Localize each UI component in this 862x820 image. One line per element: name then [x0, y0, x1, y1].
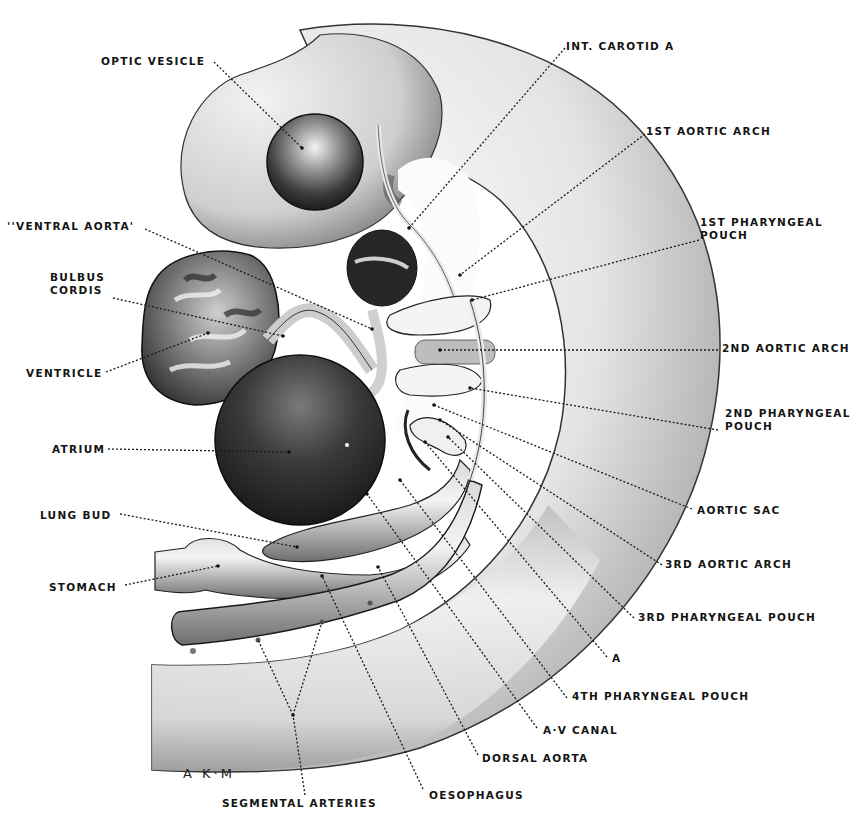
- leader-endpoint-dot: [407, 226, 411, 230]
- leader-endpoint-dot: [376, 565, 380, 569]
- label-text: 1ST PHARYNGEAL: [700, 216, 823, 228]
- label-3rd-pharyngeal-pouch: 3RD PHARYNGEAL POUCH: [638, 611, 816, 624]
- optic-vesicle: [267, 114, 363, 210]
- label-text: A·V CANAL: [543, 724, 618, 736]
- label-text: 2ND PHARYNGEAL: [725, 407, 851, 419]
- label-atrium: ATRIUM: [52, 443, 105, 456]
- label-ventricle: VENTRICLE: [26, 367, 103, 380]
- label-a: A: [612, 652, 621, 665]
- label-text: A: [612, 652, 621, 664]
- label-text: INT. CAROTID A: [566, 40, 675, 52]
- leader-endpoint-dot: [468, 386, 472, 390]
- label-text-line2: CORDIS: [50, 284, 105, 297]
- label-oesophagus: OESOPHAGUS: [429, 789, 524, 802]
- leader-endpoint-dot: [365, 492, 369, 496]
- embryo-diagram: OPTIC VESICLEINT. CAROTID A1ST AORTIC AR…: [0, 0, 862, 820]
- label-lung-bud: LUNG BUD: [40, 509, 112, 522]
- label-text: 4TH PHARYNGEAL POUCH: [572, 690, 749, 702]
- label-2nd-aortic-arch: 2ND AORTIC ARCH: [722, 342, 850, 355]
- label-2nd-pharyngeal-pouch: 2ND PHARYNGEALPOUCH: [725, 407, 851, 433]
- leader-endpoint-dot: [320, 574, 324, 578]
- label-text-line2: POUCH: [700, 229, 823, 242]
- label-dorsal-aorta: DORSAL AORTA: [482, 752, 589, 765]
- label-text: 2ND AORTIC ARCH: [722, 342, 850, 354]
- label-text: STOMACH: [49, 581, 117, 593]
- leader-endpoint-dot: [423, 440, 427, 444]
- label-optic-vesicle: OPTIC VESICLE: [101, 55, 205, 68]
- leader-endpoint-dot: [206, 331, 210, 335]
- atrium: [215, 355, 385, 525]
- leader-endpoint-dot: [446, 435, 450, 439]
- leader-endpoint-dot: [432, 403, 436, 407]
- label-3rd-aortic-arch: 3RD AORTIC ARCH: [665, 558, 792, 571]
- label-1st-aortic-arch: 1ST AORTIC ARCH: [646, 125, 771, 138]
- label-text: LUNG BUD: [40, 509, 112, 521]
- leader-endpoint-dot: [398, 478, 402, 482]
- leader-endpoint-dot: [295, 545, 299, 549]
- label-bulbus-cordis: BULBUSCORDIS: [50, 271, 105, 297]
- label-text: SEGMENTAL ARTERIES: [222, 797, 377, 809]
- leader-endpoint-dot: [438, 348, 442, 352]
- label-1st-pharyngeal-pouch: 1ST PHARYNGEALPOUCH: [700, 216, 823, 242]
- label-text: VENTRICLE: [26, 367, 103, 379]
- label-text: BULBUS: [50, 271, 105, 283]
- leader-endpoint-dot: [470, 298, 474, 302]
- leader-endpoint-dot: [216, 564, 220, 568]
- label-text: 3RD AORTIC ARCH: [665, 558, 792, 570]
- leader-endpoint-dot: [281, 334, 285, 338]
- label-segmental-arteries: SEGMENTAL ARTERIES: [222, 797, 377, 810]
- label-text: OPTIC VESICLE: [101, 55, 205, 67]
- leader-endpoint-dot: [458, 273, 462, 277]
- label-4th-pharyngeal-pouch: 4TH PHARYNGEAL POUCH: [572, 690, 749, 703]
- label-text: ATRIUM: [52, 443, 105, 455]
- leader-endpoint-dot: [370, 327, 374, 331]
- label-a-v-canal: A·V CANAL: [543, 724, 618, 737]
- label-text: DORSAL AORTA: [482, 752, 589, 764]
- leader-endpoint-dot: [438, 418, 442, 422]
- label-text-line2: POUCH: [725, 420, 851, 433]
- pouch-2: [396, 364, 482, 396]
- label-text: AORTIC SAC: [697, 504, 781, 516]
- label-ventral-aorta: ''VENTRAL AORTA': [7, 220, 134, 233]
- label-text: ''VENTRAL AORTA': [7, 220, 134, 232]
- leader-endpoint-dot: [287, 450, 291, 454]
- label-text: OESOPHAGUS: [429, 789, 524, 801]
- label-int-carotid-a: INT. CAROTID A: [566, 40, 675, 53]
- label-aortic-sac: AORTIC SAC: [697, 504, 781, 517]
- label-text: 3RD PHARYNGEAL POUCH: [638, 611, 816, 623]
- label-stomach: STOMACH: [49, 581, 117, 594]
- leader-endpoint-dot: [300, 146, 304, 150]
- artist-signature: A K·M: [183, 766, 235, 781]
- label-text: 1ST AORTIC ARCH: [646, 125, 771, 137]
- pouch-3: [410, 418, 466, 455]
